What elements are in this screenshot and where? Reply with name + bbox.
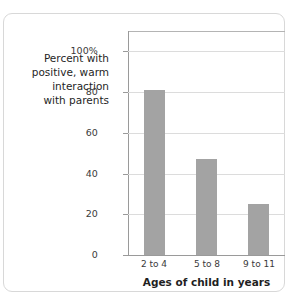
x-tick-label-9-to-11: 9 to 11	[229, 258, 289, 270]
y-tick-mark-60	[123, 133, 128, 134]
x-axis-line	[128, 255, 285, 256]
x-tick-label-2-to-4: 2 to 4	[124, 258, 184, 270]
y-tick-mark-20	[123, 214, 128, 215]
x-axis-title: Ages of child in years	[128, 276, 285, 288]
y-tick-label-40: 40	[38, 169, 98, 179]
y-tick-mark-80	[123, 92, 128, 93]
chart-figure: Percent with positive, warm interaction …	[0, 0, 296, 304]
y-tick-label-20: 20	[38, 209, 98, 219]
bar-5-to-8	[196, 159, 217, 255]
y-tick-mark-0	[123, 255, 128, 256]
y-axis-title-line-2: positive, warm	[8, 65, 109, 79]
x-tick-label-5-to-8: 5 to 8	[177, 258, 237, 270]
y-tick-label-100: 100%	[38, 46, 98, 56]
y-tick-label-0: 0	[38, 250, 98, 260]
y-axis-title: Percent with positive, warm interaction …	[8, 51, 109, 107]
y-tick-label-80: 80	[38, 87, 98, 97]
bar-2-to-4	[144, 90, 165, 255]
bar-9-to-11	[248, 204, 269, 255]
gridline-100	[128, 51, 285, 52]
y-tick-mark-40	[123, 174, 128, 175]
y-tick-label-60: 60	[38, 128, 98, 138]
y-tick-mark-100	[123, 51, 128, 52]
